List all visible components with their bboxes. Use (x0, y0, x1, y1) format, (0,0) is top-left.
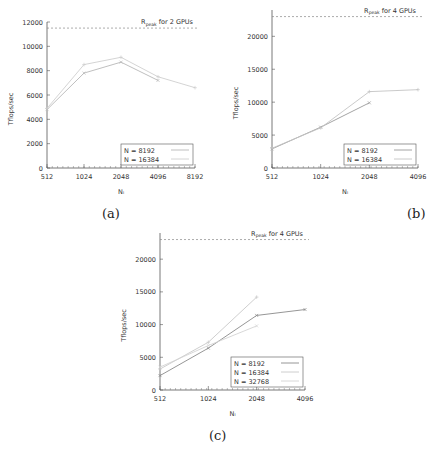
chart-c: 05000100001500020000512102420484096NₗTfl… (110, 230, 340, 430)
y-tick-label: 15000 (247, 66, 268, 74)
y-tick-label: 20000 (135, 256, 156, 264)
x-axis-label: Nₗ (230, 410, 236, 418)
data-point (157, 79, 160, 82)
data-point (270, 146, 274, 150)
x-tick-label: 4096 (410, 173, 427, 181)
y-tick-label: 5000 (139, 354, 156, 362)
data-point (119, 55, 123, 59)
y-tick-label: 10000 (22, 43, 43, 51)
caption-b: (b) (407, 206, 425, 221)
legend-label: N = 16384 (234, 369, 269, 377)
x-tick-label: 512 (266, 173, 278, 181)
peak-reference-label: Rpeak for 4 GPUs (251, 230, 304, 239)
legend-label: N = 16384 (124, 156, 159, 164)
y-tick-label: 0 (152, 387, 156, 395)
chart-panel-b: 05000100001500020000512102420484096NₗTfl… (215, 0, 437, 205)
data-point (156, 75, 160, 79)
y-tick-label: 2000 (26, 140, 43, 148)
x-tick-label: 2048 (113, 173, 130, 181)
series-line-0 (47, 62, 158, 109)
y-tick-label: 0 (264, 165, 268, 173)
y-axis-label: Tflops/sec (232, 86, 240, 120)
caption-a: (a) (102, 206, 120, 221)
x-tick-label: 4096 (297, 395, 314, 403)
y-tick-label: 10000 (135, 321, 156, 329)
y-tick-label: 12000 (22, 19, 43, 27)
data-point (368, 101, 371, 104)
data-point (193, 86, 197, 90)
y-axis-label: Tflops/sec (120, 309, 128, 343)
x-tick-label: 512 (41, 173, 53, 181)
series-line-1 (47, 57, 195, 108)
chart-a: 0200040006000800010000120005121024204840… (0, 0, 215, 205)
y-axis-label: Tflops/sec (7, 92, 15, 126)
y-tick-label: 10000 (247, 99, 268, 107)
legend-label: N = 16384 (347, 156, 382, 164)
data-point (207, 347, 210, 350)
chart-b: 05000100001500020000512102420484096NₗTfl… (215, 0, 437, 205)
chart-panel-a: 0200040006000800010000120005121024204840… (0, 0, 215, 205)
x-axis-label: Nₗ (118, 188, 124, 196)
x-tick-label: 2048 (361, 173, 378, 181)
series-line-1 (272, 90, 418, 149)
x-tick-label: 512 (154, 395, 166, 403)
y-tick-label: 8000 (26, 67, 43, 75)
legend-label: N = 8192 (347, 147, 378, 155)
y-tick-label: 6000 (26, 92, 43, 100)
peak-reference-label: Rpeak for 2 GPUs (141, 18, 194, 27)
caption-c: (c) (209, 428, 226, 443)
y-tick-label: 0 (39, 165, 43, 173)
x-tick-label: 1024 (76, 173, 93, 181)
y-tick-label: 5000 (251, 132, 268, 140)
y-tick-label: 4000 (26, 116, 43, 124)
x-tick-label: 1024 (200, 395, 217, 403)
y-tick-label: 20000 (247, 33, 268, 41)
chart-panel-c: 05000100001500020000512102420484096NₗTfl… (110, 230, 340, 430)
peak-reference-label: Rpeak for 4 GPUs (364, 7, 417, 16)
legend-label: N = 8192 (234, 360, 265, 368)
y-tick-label: 15000 (135, 288, 156, 296)
legend-label: N = 8192 (124, 147, 155, 155)
data-point (158, 367, 162, 371)
x-axis-label: Nₗ (342, 188, 348, 196)
x-tick-label: 8192 (187, 173, 204, 181)
x-tick-label: 2048 (248, 395, 265, 403)
x-tick-label: 1024 (312, 173, 329, 181)
legend-label: N = 32768 (234, 378, 269, 386)
data-point (416, 88, 420, 92)
x-tick-label: 4096 (150, 173, 167, 181)
